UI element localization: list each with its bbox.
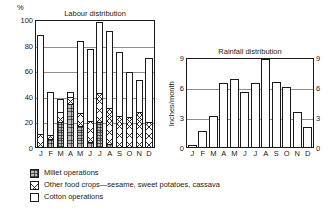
rainfall-bar-group <box>187 59 313 147</box>
labour-segment-other <box>77 113 84 127</box>
labour-segment-other <box>87 121 94 143</box>
labour-segment-other <box>126 117 133 148</box>
rainfall-bar <box>261 59 270 147</box>
labour-stacked-bar <box>106 31 113 147</box>
rainfall-bar-body <box>282 87 291 148</box>
legend-swatch-other-food-crops-icon <box>30 181 39 190</box>
rainfall-bar-slot-F-1 <box>198 59 209 147</box>
rainfall-x-label-6: J <box>250 150 261 158</box>
rainfall-bar <box>272 82 281 147</box>
labour-segment-other <box>96 93 103 124</box>
labour-ytick-100: 100 <box>20 17 33 25</box>
labour-segment-cotton <box>106 31 113 109</box>
rainfall-plot-area: 9 6 3 0 9 6 3 0 JFMAMJJASOND <box>186 58 314 148</box>
rainfall-bar-slot-M-4 <box>229 59 240 147</box>
rainfall-bar-body <box>303 127 312 148</box>
rainfall-ytick-right-0: 0 <box>316 145 320 153</box>
labour-bar-slot-D-11 <box>144 21 154 147</box>
rainfall-bar <box>209 116 218 147</box>
labour-x-label-1: F <box>46 150 56 158</box>
labour-segment-cotton <box>37 35 44 135</box>
legend-item-millet: Millet operations <box>30 167 220 179</box>
labour-segment-millet <box>87 142 94 148</box>
labour-bar-slot-O-9 <box>124 21 134 147</box>
rainfall-bar-body <box>261 59 270 148</box>
labour-bar-slot-J-6 <box>95 21 105 147</box>
rainfall-bar-slot-A-7 <box>261 59 272 147</box>
legend-label-millet: Millet operations <box>44 169 99 177</box>
rainfall-bar <box>230 79 239 147</box>
rainfall-bar-body <box>219 83 228 148</box>
rainfall-bar <box>282 87 291 147</box>
rainfall-bar-body <box>293 112 302 148</box>
rainfall-bar-body <box>198 131 207 148</box>
rainfall-bar <box>293 112 302 147</box>
labour-segment-cotton <box>47 92 54 136</box>
labour-x-axis-labels: JFMAMJJASOND <box>36 150 154 158</box>
labour-bar-slot-A-7 <box>105 21 115 147</box>
labour-stacked-bar <box>57 99 64 147</box>
rainfall-x-label-5: J <box>240 150 251 158</box>
labour-x-label-0: J <box>36 150 46 158</box>
labour-stacked-bar <box>126 72 133 147</box>
labour-bar-slot-N-10 <box>134 21 144 147</box>
rainfall-bar-slot-J-5 <box>240 59 251 147</box>
labour-segment-cotton <box>57 99 64 113</box>
rainfall-x-label-2: M <box>208 150 219 158</box>
labour-bar-slot-J-5 <box>85 21 95 147</box>
rainfall-bar-slot-D-11 <box>303 59 314 147</box>
labour-stacked-bar <box>37 35 44 147</box>
rainfall-x-axis-labels: JFMAMJJASOND <box>187 150 313 158</box>
labour-stacked-bar <box>116 52 123 147</box>
rainfall-x-label-4: M <box>229 150 240 158</box>
labour-segment-cotton <box>77 41 84 114</box>
rainfall-ytick-3: 3 <box>180 115 184 123</box>
labour-bar-slot-M-2 <box>56 21 66 147</box>
labour-segment-millet <box>96 122 103 148</box>
labour-plot-area: 100 80 60 40 20 0 JFMAMJJASOND <box>35 20 155 148</box>
rainfall-bar-body <box>240 92 249 148</box>
labour-x-label-9: O <box>124 150 134 158</box>
rainfall-bar <box>188 145 197 147</box>
rainfall-bar <box>251 83 260 147</box>
rainfall-bar-slot-J-6 <box>250 59 261 147</box>
legend-label-cotton: Cotton operations <box>44 193 103 201</box>
labour-x-label-11: D <box>144 150 154 158</box>
labour-ytick-20: 20 <box>25 120 33 128</box>
labour-stacked-bar <box>67 92 74 147</box>
labour-bar-slot-S-8 <box>115 21 125 147</box>
rainfall-bar-body <box>251 83 260 148</box>
labour-stacked-bar <box>77 41 84 147</box>
labour-segment-millet <box>106 144 113 148</box>
labour-x-label-6: J <box>95 150 105 158</box>
labour-stacked-bar <box>96 22 103 147</box>
rainfall-bar-body <box>272 82 281 148</box>
rainfall-axis-label: Inches/month <box>168 73 176 135</box>
legend: Millet operations Other food crops—sesam… <box>30 167 220 203</box>
labour-segment-millet <box>77 126 84 148</box>
labour-x-label-7: A <box>105 150 115 158</box>
rainfall-ytick-0: 0 <box>180 145 184 153</box>
labour-segment-other <box>116 116 123 148</box>
labour-ytick-0: 0 <box>29 145 33 153</box>
rainfall-x-label-3: A <box>219 150 230 158</box>
rainfall-bar <box>303 127 312 147</box>
legend-item-cotton: Cotton operations <box>30 191 220 203</box>
rainfall-x-label-7: A <box>261 150 272 158</box>
rainfall-ytick-right-9: 9 <box>316 55 320 63</box>
labour-segment-cotton <box>116 52 123 117</box>
rainfall-bar-body <box>188 145 197 148</box>
rainfall-bar-slot-M-2 <box>208 59 219 147</box>
labour-segment-other <box>136 112 143 148</box>
labour-percent-unit: % <box>17 4 24 12</box>
labour-bar-slot-A-3 <box>65 21 75 147</box>
legend-item-other-food-crops: Other food crops—sesame, sweet potatoes,… <box>30 179 220 191</box>
labour-stacked-bar <box>136 80 143 147</box>
rainfall-x-label-11: D <box>303 150 314 158</box>
labour-x-label-3: A <box>65 150 75 158</box>
legend-label-other-food-crops: Other food crops—sesame, sweet potatoes,… <box>44 181 220 189</box>
rainfall-bar-slot-A-3 <box>219 59 230 147</box>
labour-segment-other <box>106 108 113 145</box>
rainfall-ytick-6: 6 <box>180 85 184 93</box>
labour-stacked-bar <box>145 58 152 147</box>
